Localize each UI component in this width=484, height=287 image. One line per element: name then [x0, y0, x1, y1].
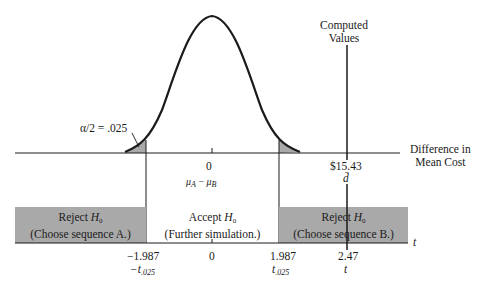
mu-b-sub: B — [212, 180, 217, 189]
tick-neg-critical-symbol: −t.025 — [130, 263, 155, 279]
diff-label-line2: Mean Cost — [410, 156, 471, 169]
alpha-leader-line — [132, 133, 139, 147]
alpha-label: α/2 = .025 — [80, 122, 127, 135]
normal-curve — [125, 16, 300, 152]
tick-zero: 0 — [209, 250, 215, 263]
tick-pos-critical: 1.987 — [270, 250, 296, 263]
t-axis-label: t — [413, 236, 416, 249]
accept-sub: 0 — [233, 217, 237, 225]
accept-region-label: Accept H0 (Further simulation.) — [146, 211, 279, 241]
neg-t-sub: .025 — [141, 268, 155, 277]
reject-b-note: (Choose sequence B.) — [279, 228, 408, 241]
mean-difference-param: μA − μB — [186, 175, 216, 191]
reject-b-h: H — [354, 211, 362, 223]
reject-a-sub: 0 — [99, 217, 103, 225]
reject-a-h: H — [91, 211, 99, 223]
accept-text: Accept — [189, 211, 224, 223]
reject-b-region-label: Reject H0 (Choose sequence B.) — [279, 211, 408, 241]
neg-t-symbol: −t — [130, 263, 141, 275]
reject-b-sub: 0 — [362, 217, 366, 225]
accept-note: (Further simulation.) — [146, 228, 279, 241]
center-zero-label: 0 — [206, 160, 212, 173]
diff-label-line1: Difference in — [410, 143, 471, 156]
reject-b-text: Reject — [321, 211, 353, 223]
reject-a-text: Reject — [58, 211, 90, 223]
accept-h: H — [224, 211, 232, 223]
tick-pos-critical-symbol: t.025 — [272, 263, 289, 279]
mu-a-sub: A — [191, 180, 196, 189]
reject-a-note: (Choose sequence A.) — [15, 228, 146, 241]
computed-title-line2: Values — [320, 32, 368, 45]
minus-sign: − — [198, 176, 204, 187]
d-bar-symbol: d̄ — [343, 172, 349, 185]
tick-neg-critical: −1.987 — [127, 250, 159, 263]
reject-a-region-label: Reject H0 (Choose sequence A.) — [15, 211, 146, 241]
computed-title-line1: Computed — [320, 19, 368, 32]
computed-values-title: Computed Values — [320, 19, 368, 45]
pos-t-sub: .025 — [275, 268, 289, 277]
difference-axis-label: Difference in Mean Cost — [410, 143, 471, 169]
tick-computed-t-symbol: t — [344, 263, 347, 276]
tick-computed-t: 2.47 — [338, 250, 358, 263]
